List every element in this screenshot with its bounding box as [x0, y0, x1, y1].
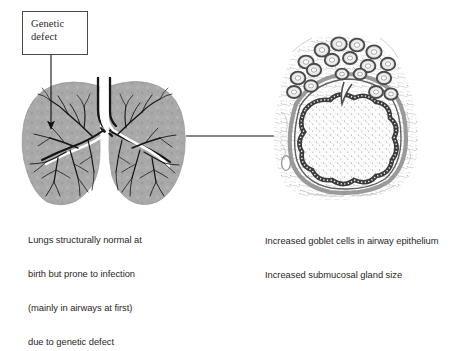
airway-histology	[274, 34, 418, 200]
caption-line: Increased goblet cells in airway epithel…	[265, 235, 438, 246]
caption-line: birth but prone to infection	[28, 268, 142, 279]
caption-line: (mainly in airways at first)	[28, 302, 142, 313]
lung-lobe-right	[109, 82, 185, 205]
caption-line: Lungs structurally normal at	[28, 234, 142, 245]
lung-diagram	[22, 78, 185, 205]
caption-line: Increased submucosal gland size	[265, 269, 438, 280]
caption-line: due to genetic defect	[28, 336, 142, 347]
lung-caption: Lungs structurally normal at birth but p…	[28, 211, 142, 351]
histology-caption: Increased goblet cells in airway epithel…	[265, 212, 438, 292]
callout-line-2: defect	[31, 30, 87, 43]
callout-line-1: Genetic	[31, 17, 87, 30]
stromal-vessel	[282, 156, 291, 171]
genetic-defect-callout: Genetic defect	[22, 11, 88, 55]
